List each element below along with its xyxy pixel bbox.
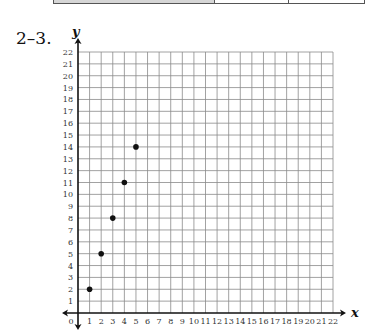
x-tick-label: 19: [293, 317, 303, 326]
x-tick-label: 1: [87, 317, 92, 326]
x-tick-label: 18: [282, 317, 292, 326]
y-tick-label: 12: [63, 167, 73, 176]
x-tick-label: 17: [270, 317, 280, 326]
data-point: [133, 144, 139, 150]
x-tick-label: 4: [122, 317, 127, 326]
y-axis-label: y: [71, 24, 81, 39]
y-tick-label: 2: [68, 285, 73, 294]
x-tick-label: 3: [110, 317, 115, 326]
x-tick-label: 6: [145, 317, 150, 326]
y-tick-label: 19: [63, 84, 73, 93]
y-tick-label: 3: [68, 273, 73, 282]
grid: [78, 52, 333, 313]
x-tick-label: 15: [247, 317, 257, 326]
x-tick-label: 21: [316, 317, 326, 326]
tick-labels: 0123456789101112131415161718192021221234…: [63, 48, 338, 326]
y-tick-label: 9: [68, 202, 73, 211]
x-tick-label: 14: [235, 317, 245, 326]
y-tick-label: 11: [63, 179, 73, 188]
x-tick-label: 9: [180, 317, 185, 326]
y-tick-label: 8: [68, 214, 73, 223]
x-tick-label: 7: [157, 317, 162, 326]
y-tick-label: 10: [63, 190, 73, 199]
x-tick-label: 13: [224, 317, 234, 326]
x-tick-label: 12: [212, 317, 222, 326]
data-point: [122, 180, 128, 186]
y-tick-label: 15: [63, 131, 73, 140]
data-point: [98, 251, 104, 257]
x-tick-label: 16: [258, 317, 268, 326]
data-point: [87, 286, 93, 292]
x-tick-label: 11: [200, 317, 210, 326]
x-tick-label: 5: [133, 317, 138, 326]
y-tick-label: 6: [68, 238, 73, 247]
y-tick-label: 20: [63, 72, 73, 81]
y-tick-label: 22: [63, 48, 73, 57]
y-tick-label: 18: [63, 95, 73, 104]
y-tick-label: 13: [63, 155, 73, 164]
y-tick-label: 17: [63, 107, 73, 116]
x-axis-label: x: [350, 305, 359, 320]
y-tick-label: 16: [63, 119, 73, 128]
x-tick-label: 0: [68, 317, 73, 326]
data-point: [110, 215, 116, 221]
x-tick-label: 8: [168, 317, 173, 326]
scatter-plot: 0123456789101112131415161718192021221234…: [0, 0, 366, 334]
x-tick-label: 10: [189, 317, 199, 326]
y-tick-label: 1: [68, 297, 73, 306]
axes: [62, 38, 346, 330]
y-tick-label: 21: [63, 60, 73, 69]
y-tick-label: 7: [68, 226, 73, 235]
y-tick-label: 5: [68, 250, 73, 259]
x-tick-label: 22: [328, 317, 338, 326]
x-tick-label: 2: [99, 317, 104, 326]
y-tick-label: 14: [63, 143, 73, 152]
x-tick-label: 20: [305, 317, 315, 326]
y-tick-label: 4: [68, 262, 73, 271]
